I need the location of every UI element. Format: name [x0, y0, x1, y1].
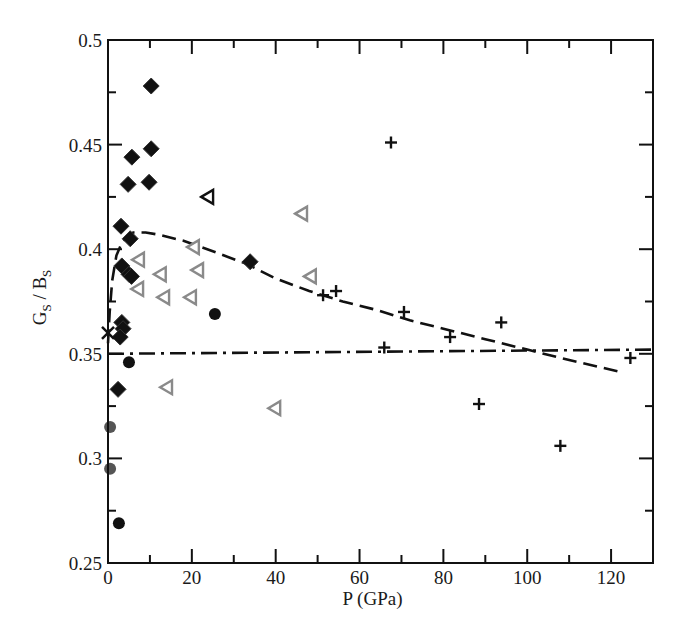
- y-tick-label: 0.4: [78, 239, 102, 260]
- x-tick-label: 20: [182, 567, 201, 588]
- y-tick-label: 0.3: [78, 448, 102, 469]
- x-tick-label: 100: [513, 567, 542, 588]
- grey-triangles-point: [160, 380, 172, 394]
- grey-triangles-point: [304, 269, 316, 283]
- plus-marks-point: [444, 331, 456, 343]
- plus-marks-point: [473, 398, 485, 410]
- grey-circles-point: [104, 463, 116, 475]
- grey-triangles-point: [295, 207, 307, 221]
- y-axis-label-sep: / B: [29, 277, 50, 304]
- y-axis-label-main: G: [29, 311, 50, 325]
- y-axis-label-sub2: S: [39, 270, 54, 277]
- black-diamonds-point: [120, 176, 136, 192]
- black-diamonds-point: [141, 174, 157, 190]
- y-tick-label: 0.35: [69, 344, 102, 365]
- plus-marks-point: [495, 316, 507, 328]
- black-diamonds-point: [122, 231, 138, 247]
- grey-triangles-point: [268, 401, 280, 415]
- y-tick-label: 0.5: [78, 30, 102, 51]
- x-tick-label: 0: [103, 567, 113, 588]
- grey-triangles-point: [132, 253, 144, 267]
- grey-triangles-point: [157, 290, 169, 304]
- plus-marks-point: [330, 285, 342, 297]
- data-markers: [102, 78, 636, 529]
- dashdot-line: [108, 350, 653, 354]
- black-diamonds-point: [143, 78, 159, 94]
- plot-lines: [108, 233, 653, 373]
- black-circles-point: [123, 356, 135, 368]
- black-diamonds-point: [110, 381, 126, 397]
- plus-marks-point: [554, 440, 566, 452]
- black-circles-point: [209, 308, 221, 320]
- grey-triangles-point: [184, 290, 196, 304]
- black-diamonds-point: [143, 141, 159, 157]
- y-tick-labels: 0.250.30.350.40.450.5: [69, 30, 103, 574]
- grey-circles-point: [104, 421, 116, 433]
- y-axis-label: GS / BS: [29, 270, 54, 326]
- black-diamonds-point: [124, 149, 140, 165]
- x-tick-label: 40: [266, 567, 285, 588]
- plus-marks-point: [385, 137, 397, 149]
- black-triangle-point: [201, 190, 213, 204]
- black-diamonds-point: [242, 254, 258, 270]
- plus-marks-point: [317, 289, 329, 301]
- black-diamonds-point: [113, 218, 129, 234]
- x-tick-label: 80: [434, 567, 453, 588]
- y-tick-label: 0.45: [69, 135, 102, 156]
- y-tick-label: 0.25: [69, 553, 102, 574]
- plus-marks-point: [624, 352, 636, 364]
- x-tick-label: 60: [350, 567, 369, 588]
- grey-triangles-point: [154, 267, 166, 281]
- scatter-chart: 020406080100120 0.250.30.350.40.450.5 P …: [0, 0, 680, 638]
- x-tick-labels: 020406080100120: [103, 567, 625, 588]
- grey-triangles-point: [131, 282, 143, 296]
- y-axis-label-sub1: S: [39, 304, 54, 311]
- x-axis-label: P (GPa): [343, 588, 403, 610]
- grey-triangles-point: [191, 263, 203, 277]
- plus-marks-point: [398, 306, 410, 318]
- black-circles-point: [113, 517, 125, 529]
- x-tick-label: 120: [597, 567, 626, 588]
